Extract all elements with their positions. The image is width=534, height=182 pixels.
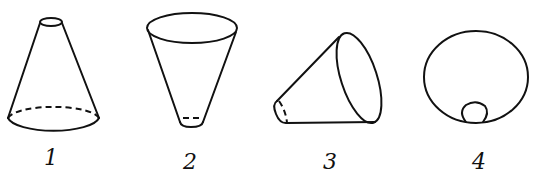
- figure-4-label: 4: [472, 151, 486, 173]
- figure-1-upright-frustum: [8, 18, 99, 131]
- figure-3-label: 3: [323, 151, 337, 173]
- cones-diagram: [0, 0, 534, 182]
- figure-3-sideways-frustum: [274, 28, 390, 129]
- figure-4-end-view: [424, 31, 528, 123]
- figure-2-label: 2: [183, 151, 197, 173]
- figure-2-inverted-frustum: [147, 13, 237, 127]
- figure-1-label: 1: [44, 147, 58, 169]
